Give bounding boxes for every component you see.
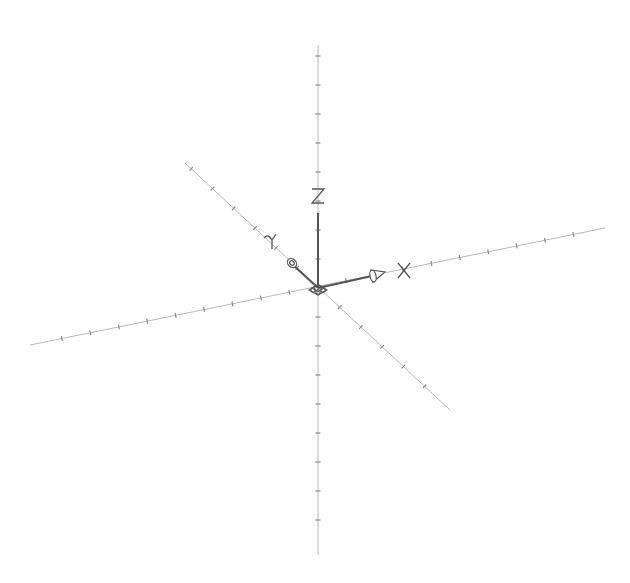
x-label-icon (398, 263, 410, 278)
tick-mark (147, 319, 148, 324)
tick-mark (431, 261, 432, 266)
y-stem (292, 264, 318, 288)
axes-svg (0, 0, 630, 583)
tick-mark (232, 301, 233, 306)
tick-mark (289, 290, 290, 295)
tick-mark (118, 325, 119, 330)
tick-mark (516, 244, 517, 249)
axes-diagram: X Y Z (0, 0, 630, 583)
tick-mark (488, 249, 489, 254)
axis-lines (30, 45, 605, 555)
x-stem (318, 276, 372, 288)
tick-mark (459, 255, 460, 260)
tick-mark (61, 336, 62, 341)
ucs-icon (264, 189, 410, 295)
tick-mark (545, 238, 546, 243)
tick-mark (260, 296, 261, 301)
tick-mark (204, 307, 205, 312)
tick-mark (175, 313, 176, 318)
tick-mark (573, 232, 574, 237)
x-arrow-cone-icon (369, 270, 385, 283)
tick-mark (90, 330, 91, 335)
